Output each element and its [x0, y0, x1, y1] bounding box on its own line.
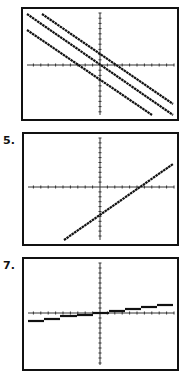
graph-7-step-function: [23, 258, 178, 370]
graph-5-positive-slope-line: [23, 133, 178, 245]
charts-canvas: [0, 0, 194, 380]
graph-1-three-parallel-lines: [22, 8, 178, 120]
